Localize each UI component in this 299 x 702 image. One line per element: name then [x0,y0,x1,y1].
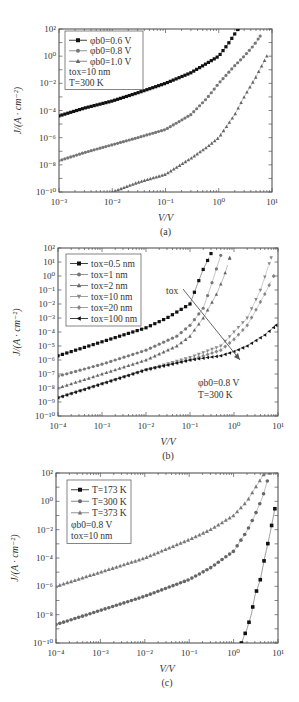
data-marker [215,292,219,295]
data-marker [193,357,197,361]
data-marker [62,582,66,586]
data-marker [245,344,248,348]
data-marker [204,98,207,101]
data-marker [251,45,254,48]
data-marker [171,362,175,366]
data-marker [90,149,93,152]
data-marker [274,324,277,328]
data-marker [131,373,135,376]
data-marker [148,367,151,371]
data-marker [183,580,187,584]
data-marker [109,379,112,383]
data-marker [131,93,134,96]
data-marker [154,85,157,88]
data-marker [170,362,173,366]
data-marker [267,283,271,287]
x-tick-label: 10¹ [272,421,284,431]
data-marker [164,587,168,591]
data-marker [69,618,73,622]
data-marker [216,56,219,59]
data-marker [125,95,128,98]
data-marker [99,570,103,574]
data-marker [180,75,183,78]
data-marker [133,597,137,601]
data-marker [119,97,122,100]
data-marker [183,74,186,77]
y-tick-label: 10⁻¹⁰ [36,187,56,197]
data-marker [189,71,192,74]
data-marker [77,295,81,299]
y-tick-label: 10⁻⁶ [38,355,55,365]
data-marker [228,552,232,556]
data-marker [128,138,131,141]
data-marker [223,353,226,357]
data-marker [224,45,227,48]
data-marker [186,578,190,582]
legend-entry: tox=20 nm [91,303,133,313]
y-tick-label: 10⁻⁹ [38,397,55,407]
data-marker [113,378,116,382]
data-marker [163,128,166,131]
figure-caption: (a) [160,226,171,238]
x-tick-label: 10⁻³ [92,648,109,658]
chart-a-root: 10⁻³10⁻²10⁻¹10⁰10¹10⁻¹⁰10⁻⁸10⁻⁶10⁻⁴10⁻²1… [12,24,278,238]
data-marker [193,318,196,321]
data-marker [216,523,220,527]
data-marker [184,357,188,360]
data-marker [157,130,160,133]
data-marker [78,153,81,156]
data-marker [61,353,64,356]
data-marker [98,103,101,106]
data-marker [157,365,161,368]
data-marker [63,157,66,160]
data-marker [230,37,233,40]
data-marker [92,343,95,346]
data-marker [177,120,180,123]
y-tick-label: 10⁰ [43,51,56,61]
data-marker [223,344,227,348]
y-tick-label: 10⁻¹⁰ [35,411,55,421]
data-marker [182,539,186,543]
data-marker [136,136,139,139]
data-marker [149,324,152,327]
data-marker [232,337,236,341]
data-marker [96,364,99,367]
data-marker [239,58,242,61]
x-tick-label: 10⁻³ [51,197,68,207]
data-marker [160,83,163,86]
legend-entry: φb0=1.0 V [90,57,131,67]
data-marker [110,143,113,146]
data-marker [206,259,209,262]
data-marker [69,579,73,583]
data-marker [188,356,192,359]
data-marker [190,156,194,159]
data-marker [144,368,148,371]
data-marker [219,254,222,257]
figure-caption: (c) [161,677,172,689]
data-marker [61,394,65,398]
data-marker [263,292,267,296]
data-marker [162,364,166,368]
data-marker [118,377,122,380]
data-marker [118,366,122,369]
data-marker [197,353,201,356]
data-marker [103,607,107,611]
data-marker [201,316,205,319]
data-marker [265,54,269,57]
data-marker [186,72,189,75]
data-marker [224,555,228,559]
y-axis-title: J/(A · cm⁻²) [9,534,21,582]
data-marker [251,605,255,609]
data-marker [96,373,100,376]
chart-panel-a: 10⁻³10⁻²10⁻¹10⁰10¹10⁻¹⁰10⁻⁸10⁻⁶10⁻⁴10⁻²1… [0,0,299,240]
data-marker [245,323,249,327]
data-marker [245,317,249,320]
data-marker [153,366,156,370]
data-marker [257,70,261,73]
axis-ticks [56,473,278,643]
data-marker [149,347,152,350]
data-marker [201,354,205,358]
data-marker [228,256,232,259]
data-marker [119,141,122,144]
data-marker [243,502,247,506]
